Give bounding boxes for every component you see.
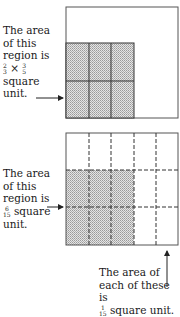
area-expression: 23 × 35: [3, 62, 50, 75]
bottom-caption: The area of this region is 615 square un…: [3, 167, 50, 230]
times-sign: ×: [10, 62, 19, 74]
area-fraction-line: 615 square: [3, 205, 50, 218]
fraction-a: 23: [3, 63, 7, 75]
top-caption: The area of this region is 23 × 35 squar…: [3, 24, 50, 100]
caption-line: unit.: [3, 87, 50, 100]
caption-line: The area: [3, 24, 50, 37]
top-unit-square: [66, 7, 178, 118]
note-line: The area of: [99, 266, 180, 279]
note-line: each of these is: [99, 279, 180, 304]
caption-line: The area: [3, 167, 50, 180]
note-word: square unit.: [110, 304, 174, 316]
caption-word: square: [14, 205, 50, 217]
fraction-1-15: 115: [99, 305, 107, 317]
caption-line: unit.: [3, 218, 50, 231]
caption-line: of this: [3, 37, 50, 50]
caption-line: of this: [3, 180, 50, 193]
caption-line: square: [3, 75, 50, 88]
fraction-6-15: 615: [3, 206, 11, 218]
fraction-b: 35: [22, 63, 26, 75]
unit-piece-note: The area of each of these is 115 square …: [99, 266, 180, 317]
caption-line: region is: [3, 192, 50, 205]
bottom-unit-square: [66, 133, 178, 245]
caption-line: region is: [3, 49, 50, 62]
note-fraction-line: 115 square unit.: [99, 304, 180, 317]
